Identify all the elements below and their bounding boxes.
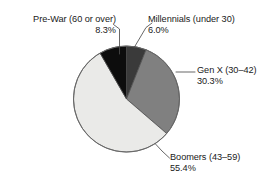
pie-label-pre-war: Pre-War (60 or over) 8.3% [8, 14, 116, 37]
pie-label-boomers-percent: 55.4% [170, 163, 266, 174]
pie-label-gen-x: Gen X (30–42) 30.3% [197, 65, 267, 88]
pie-label-gen-x-percent: 30.3% [197, 76, 267, 87]
pie-label-gen-x-text: Gen X (30–42) [197, 65, 257, 75]
pie-label-millennials-text: Millennials (under 30) [148, 14, 235, 24]
pie-label-pre-war-percent: 8.3% [8, 25, 116, 36]
pie-label-boomers: Boomers (43–59) 55.4% [170, 152, 266, 175]
pie-label-millennials: Millennials (under 30) 6.0% [148, 14, 264, 37]
pie-label-pre-war-text: Pre-War (60 or over) [33, 14, 116, 24]
pie-chart-figure: Pre-War (60 or over) 8.3% Millennials (u… [0, 0, 267, 186]
pie-label-millennials-percent: 6.0% [148, 25, 264, 36]
pie-label-boomers-text: Boomers (43–59) [170, 152, 240, 162]
pie-slices [74, 46, 180, 152]
leader-line-boomers [156, 144, 170, 158]
